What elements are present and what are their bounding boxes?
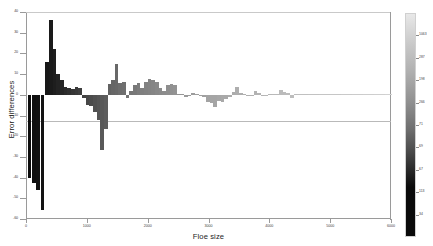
x-tick <box>87 219 88 223</box>
bar-series <box>26 12 391 219</box>
colorbar-tick-label: 71 <box>419 123 433 127</box>
x-tick-label: 6000 <box>379 224 403 228</box>
colorbar-gradient <box>405 13 416 237</box>
x-tick <box>209 219 210 223</box>
colorbar-tick-label: 287 <box>419 56 433 60</box>
x-tick-label: 4000 <box>257 224 281 228</box>
x-tick-label: 3000 <box>197 224 221 228</box>
bar <box>188 95 192 97</box>
colorbar-tick-label: 198 <box>419 78 433 82</box>
colorbar-tick-label: 67 <box>419 168 433 172</box>
figure-canvas: Error differences -60-50-40-30-20-100102… <box>0 0 433 246</box>
x-tick-label: 5000 <box>318 224 342 228</box>
y-tick-label: 0 <box>0 93 18 97</box>
x-tick-label: 0 <box>14 224 38 228</box>
bar <box>104 95 108 129</box>
y-tick-label: -30 <box>0 155 18 159</box>
y-tick-label: -10 <box>0 114 18 118</box>
colorbar-tick-label: 113 <box>419 190 433 194</box>
bar <box>126 95 130 98</box>
y-tick-label: 30 <box>0 31 18 35</box>
y-tick-label: 10 <box>0 72 18 76</box>
bar <box>28 95 32 178</box>
x-tick <box>391 219 392 223</box>
y-tick-label: 20 <box>0 51 18 55</box>
y-tick-label: -50 <box>0 196 18 200</box>
bar <box>250 95 254 96</box>
bar <box>122 82 126 94</box>
bar <box>32 95 36 183</box>
colorbar-tick-label: 1063 <box>419 33 433 37</box>
bar <box>78 88 82 95</box>
x-tick-label: 1000 <box>75 224 99 228</box>
bar <box>264 95 268 97</box>
colorbar <box>405 13 416 237</box>
x-tick <box>148 219 149 223</box>
x-axis-title: Floe size <box>26 232 391 241</box>
bar <box>389 94 393 95</box>
x-tick-label: 2000 <box>136 224 160 228</box>
y-tick-label: -20 <box>0 134 18 138</box>
colorbar-tick-label: 266 <box>419 101 433 105</box>
x-tick <box>269 219 270 223</box>
colorbar-tick-label: 34 <box>419 213 433 217</box>
bar <box>45 62 49 95</box>
y-tick-label: 40 <box>0 10 18 14</box>
x-tick <box>330 219 331 223</box>
y-tick-label: -60 <box>0 217 18 221</box>
bar <box>290 95 294 98</box>
y-tick-label: -40 <box>0 176 18 180</box>
bar <box>228 95 232 97</box>
x-tick <box>26 219 27 223</box>
bar <box>41 95 45 210</box>
colorbar-tick-label: 69 <box>419 145 433 149</box>
bar <box>36 95 40 190</box>
